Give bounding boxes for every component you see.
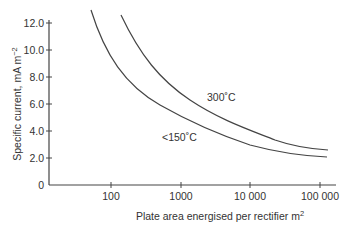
x-tick-label: 100 (102, 190, 120, 202)
y-tick-label: 6.0 (29, 98, 44, 110)
y-axis-title: Specific current, mA m−2 (10, 47, 23, 161)
x-tick-label: 100 000 (301, 190, 339, 202)
y-tick-label: 0 (38, 179, 44, 191)
curve-label-300c: 300˚C (207, 91, 236, 103)
y-tick-label: 2.0 (29, 152, 44, 164)
y-tick-label: 4.0 (29, 125, 44, 137)
y-tick-label: 8.0 (29, 71, 44, 83)
chart: 12.0 10.0 8.0 6.0 4.0 2.0 0 100 1000 10 … (0, 0, 348, 230)
curve-below-150c (91, 10, 327, 157)
x-axis-title: Plate area energised per rectifier m2 (136, 209, 304, 222)
y-tick-labels: 12.0 10.0 8.0 6.0 4.0 2.0 0 (24, 17, 45, 191)
x-tick-labels: 100 1000 10 000 100 000 (102, 190, 339, 202)
y-tick-label: 10.0 (24, 44, 45, 56)
x-tick-label: 1000 (169, 190, 193, 202)
x-tick-label: 10 000 (234, 190, 266, 202)
curve-label-below-150c: <150˚C (162, 131, 197, 143)
curve-300c (121, 15, 328, 150)
y-tick-label: 12.0 (24, 17, 45, 29)
